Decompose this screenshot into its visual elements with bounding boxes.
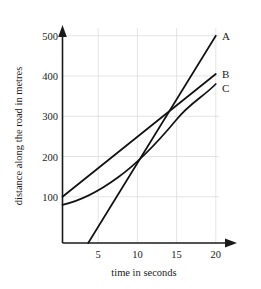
- y-axis-title: distance along the road in metres: [13, 67, 24, 206]
- y-tick-label-300: 300: [42, 111, 58, 122]
- curve-label-c: C: [222, 82, 229, 94]
- x-axis-title: time in seconds: [111, 267, 176, 278]
- x-tick-label-5: 5: [96, 249, 101, 260]
- curve-label-b: B: [222, 68, 229, 80]
- chart-figure: 500 400 300 200 100 5 10 15 20 A B C tim…: [0, 0, 261, 289]
- x-tick-label-15: 15: [171, 249, 182, 260]
- y-tick-label-200: 200: [42, 152, 58, 163]
- distance-time-chart: 500 400 300 200 100 5 10 15 20 A B C tim…: [0, 0, 261, 289]
- curve-label-a: A: [222, 30, 230, 42]
- x-tick-label-10: 10: [132, 249, 143, 260]
- x-tick-label-20: 20: [211, 249, 222, 260]
- y-tick-label-100: 100: [42, 192, 58, 203]
- chart-background: [0, 0, 261, 289]
- y-tick-label-400: 400: [42, 71, 58, 82]
- y-tick-label-500: 500: [42, 31, 58, 42]
